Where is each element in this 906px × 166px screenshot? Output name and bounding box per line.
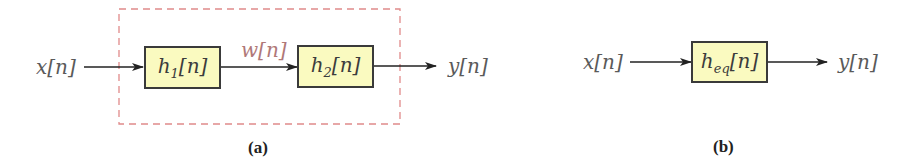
output-label-b: y[n]: [838, 52, 878, 72]
block-heq: heq[n]: [691, 41, 768, 83]
input-label-a: x[n]: [36, 57, 76, 77]
block-h2-label: h2[n]: [311, 53, 361, 80]
block-h1-label: h1[n]: [158, 54, 208, 81]
intermediate-signal-label: w[n]: [241, 40, 287, 60]
block-h1: h1[n]: [144, 46, 221, 89]
output-label-a: y[n]: [448, 56, 488, 76]
caption-a: (a): [248, 138, 268, 158]
block-heq-label: heq[n]: [701, 49, 758, 76]
input-label-b: x[n]: [583, 52, 623, 72]
caption-b: (b): [713, 137, 734, 157]
diagram-lines: [0, 0, 906, 166]
block-h2: h2[n]: [297, 45, 374, 88]
